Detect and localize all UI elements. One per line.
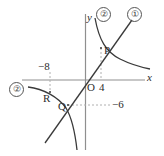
point-q-marker (67, 104, 69, 106)
point-p-marker (100, 47, 102, 49)
coordinate-figure: y x O 4 −8 −6 P Q R ② ① ② (0, 0, 164, 156)
point-label-q: Q (58, 101, 66, 112)
curve-label-line: ① (127, 7, 142, 22)
curve-hyperbola-lower-left (28, 87, 77, 150)
tick-label-y-minus6: −6 (112, 99, 124, 110)
curve-label-hyperbola-upper: ② (96, 7, 111, 22)
y-axis-label: y (87, 12, 92, 23)
point-label-r: R (43, 93, 50, 104)
origin-label: O (87, 82, 95, 93)
curve-label-hyperbola-left: ② (9, 82, 24, 97)
tick-label-x-minus8: −8 (38, 61, 50, 72)
graph-canvas (0, 0, 164, 156)
tick-label-x-4: 4 (99, 82, 105, 93)
point-label-p: P (104, 45, 110, 56)
x-axis-label: x (147, 72, 152, 83)
